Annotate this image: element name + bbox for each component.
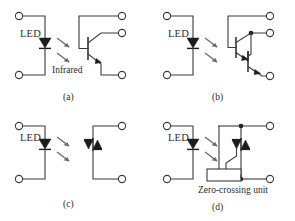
panel-b-led-cathode-terminal	[163, 71, 170, 78]
panel-b-transistor2-emitter-arrow	[254, 69, 261, 74]
panel-b-caption: (b)	[212, 93, 223, 103]
panel-b-terminal-top-right	[266, 12, 273, 19]
panel-b-terminal-emitter	[266, 72, 273, 79]
panel-a-led-anode-terminal	[15, 12, 22, 19]
panel-d-led-cathode-terminal	[163, 175, 170, 182]
panel-b-led-label: LED	[168, 29, 189, 40]
panel-c-led-label: LED	[20, 133, 41, 144]
panel-c-terminal-top-right	[118, 122, 125, 129]
panel-d-led-label: LED	[168, 133, 189, 144]
panel-d-terminal-bottom-right	[266, 175, 273, 182]
panel-a-transistor-base-wire	[79, 16, 118, 49]
panel-c-caption: (c)	[63, 200, 74, 210]
panel-d-triac-left-triangle	[232, 140, 241, 149]
panel-b-photo-darlington	[228, 12, 274, 79]
panel-b-transistor1-emitter-arrow	[242, 55, 249, 60]
panel-b-circuit	[163, 12, 273, 79]
panel-b-led-anode-terminal	[163, 12, 170, 19]
panel-a-transistor-collector-wire	[88, 33, 118, 43]
panel-a-phototransistor	[79, 12, 126, 78]
panel-a-led-diode-triangle	[39, 38, 51, 48]
panel-c-triac-top-wire	[93, 126, 118, 139]
panel-c-triac-left-triangle	[84, 140, 93, 149]
panel-d-triac-gate-wire	[226, 149, 237, 169]
panel-d-triac-top-wire	[241, 126, 266, 139]
panel-d-triac-right-triangle	[241, 140, 250, 149]
panel-b-terminal-collector	[266, 29, 273, 36]
panel-b-led-bottom-wire	[171, 48, 193, 75]
panel-c-led-anode-terminal	[15, 122, 22, 129]
panel-a-led-bottom-wire	[23, 48, 45, 75]
panel-c-light-rays	[57, 137, 70, 161]
panel-c-led-bottom-wire	[23, 149, 45, 179]
panel-d-led-anode-terminal	[163, 122, 170, 129]
panel-d-caption: (d)	[212, 203, 223, 213]
panel-d-photo-triac	[207, 122, 274, 182]
panel-c-led-cathode-terminal	[15, 175, 22, 182]
panel-a-led-label: LED	[20, 29, 41, 40]
panel-b-led-branch	[163, 12, 199, 78]
panel-a-transistor-emitter-wire	[88, 54, 118, 75]
panel-c-photo-triac	[84, 122, 126, 182]
optocoupler-figure: LED Infrared (a) LED (b) LED (c) LED Zer…	[0, 0, 295, 221]
panel-a-terminal-emitter	[118, 71, 125, 78]
panel-a-terminal-collector	[118, 29, 125, 36]
panel-a-led-cathode-terminal	[15, 71, 22, 78]
panel-a-led-branch	[15, 12, 51, 78]
panel-d-light-rays	[205, 137, 218, 161]
panel-a-terminal-top-right	[118, 12, 125, 19]
panel-d-zero-crossing-box	[207, 169, 241, 181]
panel-a-caption: (a)	[63, 93, 74, 103]
panel-c-terminal-bottom-right	[118, 175, 125, 182]
panel-c-triac-bottom-wire	[93, 149, 118, 179]
panel-d-terminal-top-right	[266, 122, 273, 129]
panel-a-infrared-label: Infrared	[52, 66, 83, 76]
panel-b-transistor1-base-wire	[228, 16, 266, 48]
panel-c-triac-right-triangle	[93, 140, 102, 149]
panel-d-led-bottom-wire	[171, 149, 193, 179]
panel-b-light-rays	[205, 38, 218, 62]
panel-d-zero-crossing-label: Zero-crossing unit	[198, 186, 268, 196]
panel-a-transistor-emitter-arrow	[95, 58, 101, 63]
panel-a-light-rays	[57, 38, 70, 62]
panel-b-led-diode-triangle	[187, 38, 199, 48]
